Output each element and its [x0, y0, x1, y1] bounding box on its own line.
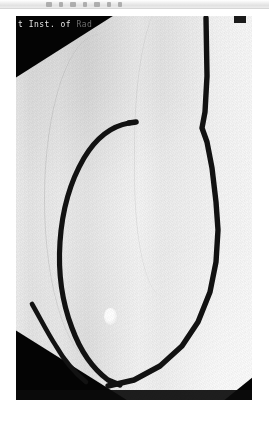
tool-icon-4[interactable] [83, 2, 87, 7]
overlay-annotation-tail: Rad [71, 20, 92, 29]
toolbar-icon-group [46, 1, 122, 8]
catheter-overlay [16, 16, 252, 400]
image-viewer-toolbar[interactable] [0, 0, 269, 9]
toolbar-divider [0, 8, 269, 9]
tool-icon-2[interactable] [59, 2, 63, 7]
overlay-annotation-main: t Inst. of [18, 20, 71, 29]
catheter-tip [129, 122, 136, 123]
catheter-vertical-segment [108, 18, 218, 386]
tool-icon-1[interactable] [46, 2, 52, 7]
tool-icon-3[interactable] [70, 2, 76, 7]
tool-icon-6[interactable] [107, 2, 111, 7]
radiopaque-marker [104, 308, 117, 325]
tool-icon-5[interactable] [94, 2, 100, 7]
catheter-loop [60, 123, 130, 385]
overlay-annotation-text: t Inst. of Rad [18, 20, 92, 29]
radiograph-viewport[interactable]: t Inst. of Rad [16, 16, 252, 400]
tool-icon-7[interactable] [118, 2, 122, 7]
